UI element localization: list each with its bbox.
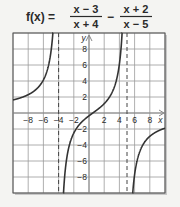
- svg-text:2: 2: [102, 115, 107, 125]
- svg-text:−8: −8: [23, 115, 33, 125]
- svg-text:−6: −6: [77, 156, 87, 166]
- svg-text:−4: −4: [77, 140, 87, 150]
- svg-text:6: 6: [132, 115, 137, 125]
- svg-text:4: 4: [82, 76, 87, 86]
- svg-text:y: y: [81, 33, 87, 43]
- svg-text:8: 8: [82, 44, 87, 54]
- svg-text:−4: −4: [54, 115, 64, 125]
- svg-text:x: x: [157, 115, 163, 125]
- svg-text:8: 8: [147, 115, 152, 125]
- function-graph: −8−6−4−224688642−2−4−6−8xy: [0, 0, 180, 207]
- svg-text:−6: −6: [39, 115, 49, 125]
- svg-text:4: 4: [117, 115, 122, 125]
- svg-text:6: 6: [82, 60, 87, 70]
- svg-text:−8: −8: [77, 172, 87, 182]
- svg-text:2: 2: [82, 92, 87, 102]
